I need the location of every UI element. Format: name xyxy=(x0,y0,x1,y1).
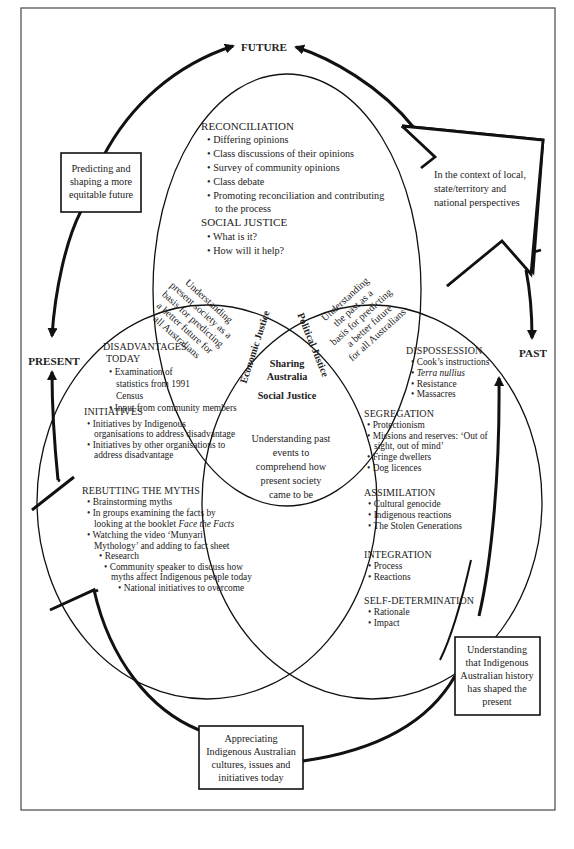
svg-text:• Watching the video ‘Munyari: • Watching the video ‘Munyari xyxy=(87,530,203,540)
svg-text:Indigenous Australian: Indigenous Australian xyxy=(206,746,296,757)
diagram-canvas: FUTURE PRESENT PAST Predicting and shapi… xyxy=(0,0,574,849)
section-reconciliation: RECONCILIATION • Differing opinions • Cl… xyxy=(201,120,384,214)
svg-text:• Research: • Research xyxy=(99,551,139,561)
svg-text:• In groups examining the fact: • In groups examining the facts by xyxy=(87,508,216,518)
svg-text:national perspectives: national perspectives xyxy=(434,197,520,208)
svg-text:• Differing opinions: • Differing opinions xyxy=(207,134,289,145)
social-justice-label: Social Justice xyxy=(258,390,317,401)
svg-text:initiatives today: initiatives today xyxy=(218,772,284,783)
sharing-australia-label: Sharing xyxy=(270,358,305,369)
svg-text:• Cultural genocide: • Cultural genocide xyxy=(368,499,441,509)
svg-text:myths affect Indigenous people: myths affect Indigenous people today xyxy=(111,572,252,582)
svg-text:• Impact: • Impact xyxy=(368,618,400,628)
svg-text:In the context of local,: In the context of local, xyxy=(434,169,526,180)
svg-text:present: present xyxy=(482,696,512,707)
section-rebutting-myths: REBUTTING THE MYTHS • Brainstorming myth… xyxy=(82,485,252,593)
svg-text:SOCIAL JUSTICE: SOCIAL JUSTICE xyxy=(201,216,287,228)
svg-text:RECONCILIATION: RECONCILIATION xyxy=(201,120,294,132)
arrow-history-to-past xyxy=(479,378,499,616)
svg-text:Australian history: Australian history xyxy=(460,670,534,681)
svg-text:equitable future: equitable future xyxy=(69,189,134,200)
svg-text:statistics from 1991: statistics from 1991 xyxy=(116,379,190,389)
svg-text:• Promoting reconciliation and: • Promoting reconciliation and contribut… xyxy=(207,190,384,201)
arrow-bottom-to-present xyxy=(52,372,58,480)
svg-text:• Dog licences: • Dog licences xyxy=(367,463,422,473)
svg-text:cultures, issues and: cultures, issues and xyxy=(212,759,291,770)
svg-text:to the process: to the process xyxy=(215,203,271,214)
label-past: PAST xyxy=(519,347,547,359)
svg-text:events to: events to xyxy=(273,447,310,458)
arc-bottom-right xyxy=(303,676,455,761)
svg-text:• Fringe dwellers: • Fringe dwellers xyxy=(367,452,432,462)
svg-text:• Class discussions of their o: • Class discussions of their opinions xyxy=(207,148,354,159)
svg-text:DISPOSSESSION: DISPOSSESSION xyxy=(406,345,482,356)
svg-text:• The Stolen Generations: • The Stolen Generations xyxy=(368,521,462,531)
svg-text:• Missions and reserves: ‘Out: • Missions and reserves: ‘Out of xyxy=(367,431,489,441)
svg-text:INTEGRATION: INTEGRATION xyxy=(364,549,432,560)
arrow-past-to-future xyxy=(296,47,415,129)
overlap-bottom-text: Understanding past events to comprehend … xyxy=(252,433,331,500)
svg-text:• Cook’s instructions: • Cook’s instructions xyxy=(411,357,490,367)
label-future: FUTURE xyxy=(241,41,287,53)
section-initiatives: INITIATIVES • Initiatives by Indigenous … xyxy=(84,406,235,460)
svg-text:• Process: • Process xyxy=(368,561,403,571)
svg-text:Census: Census xyxy=(116,391,143,401)
box-appreciating: Appreciating Indigenous Australian cultu… xyxy=(199,726,303,789)
svg-text:• Resistance: • Resistance xyxy=(411,379,457,389)
svg-text:state/territory and: state/territory and xyxy=(434,183,506,194)
svg-text:present society: present society xyxy=(261,475,323,486)
svg-text:• Protectionism: • Protectionism xyxy=(367,420,425,430)
svg-text:• Terra nullius: • Terra nullius xyxy=(411,368,465,378)
svg-text:• Class debate: • Class debate xyxy=(207,176,265,187)
label-present: PRESENT xyxy=(28,355,80,367)
section-segregation: SEGREGATION • Protectionism • Missions a… xyxy=(364,408,489,473)
sharing-australia-label-2: Australia xyxy=(267,371,308,382)
arrow-box-to-present xyxy=(52,211,81,336)
svg-text:has shaped the: has shaped the xyxy=(467,683,527,694)
svg-text:INITIATIVES: INITIATIVES xyxy=(84,406,143,417)
svg-text:TODAY: TODAY xyxy=(106,353,140,364)
svg-text:• Initiatives by other organis: • Initiatives by other organisations to xyxy=(87,440,226,450)
svg-text:REBUTTING THE MYTHS: REBUTTING THE MYTHS xyxy=(82,485,200,496)
svg-text:that Indigenous: that Indigenous xyxy=(465,657,528,668)
svg-text:Predicting and: Predicting and xyxy=(71,163,130,174)
svg-text:• Examination of: • Examination of xyxy=(109,367,174,377)
section-assimilation: ASSIMILATION • Cultural genocide • Indig… xyxy=(364,487,462,531)
section-dispossession: DISPOSSESSION • Cook’s instructions • Te… xyxy=(406,345,490,399)
box-understanding-history: Understanding that Indigenous Australian… xyxy=(455,637,540,715)
svg-text:SELF-DETERMINATION: SELF-DETERMINATION xyxy=(364,595,474,606)
section-social-justice: SOCIAL JUSTICE • What is it? • How will … xyxy=(201,216,287,256)
svg-text:Mythology’ and adding to fact: Mythology’ and adding to fact sheet xyxy=(94,541,230,551)
svg-text:SEGREGATION: SEGREGATION xyxy=(364,408,434,419)
svg-text:Understanding: Understanding xyxy=(467,644,527,655)
svg-text:• What is it?: • What is it? xyxy=(207,231,258,242)
box-predicting: Predicting and shaping a more equitable … xyxy=(61,153,141,212)
arrow-down-to-past xyxy=(526,270,532,338)
svg-text:comprehend how: comprehend how xyxy=(256,461,327,472)
svg-text:ASSIMILATION: ASSIMILATION xyxy=(364,487,435,498)
svg-text:• National initiatives to over: • National initiatives to overcome xyxy=(118,583,244,593)
overlap-top-right-text: Understanding the past as a basis for pr… xyxy=(312,269,410,365)
svg-text:• How will it help?: • How will it help? xyxy=(207,245,285,256)
svg-text:looking at the booklet Face th: looking at the booklet Face the Facts xyxy=(94,519,234,529)
svg-text:• Initiatives by Indigenous: • Initiatives by Indigenous xyxy=(87,419,186,429)
svg-text:shaping a more: shaping a more xyxy=(70,176,133,187)
arc-lower-left xyxy=(50,590,199,730)
svg-text:DISADVANTAGES: DISADVANTAGES xyxy=(103,341,187,352)
svg-text:• Survey of community opinions: • Survey of community opinions xyxy=(207,162,340,173)
svg-text:organisations to address disad: organisations to address disadvantage xyxy=(94,429,235,439)
section-integration: INTEGRATION • Process • Reactions xyxy=(364,549,432,582)
svg-text:Appreciating: Appreciating xyxy=(224,733,277,744)
svg-text:• Massacres: • Massacres xyxy=(411,389,456,399)
svg-text:• Rationale: • Rationale xyxy=(368,607,410,617)
svg-text:Understanding past: Understanding past xyxy=(252,433,331,444)
svg-text:sight, out of mind’: sight, out of mind’ xyxy=(374,441,444,451)
svg-text:• Brainstorming myths: • Brainstorming myths xyxy=(87,497,172,507)
section-disadvantages: DISADVANTAGES TODAY • Examination of sta… xyxy=(103,341,237,413)
svg-text:• Community speaker to discuss: • Community speaker to discuss how xyxy=(104,562,243,572)
svg-text:address disadvantage: address disadvantage xyxy=(94,450,173,460)
svg-text:came to be: came to be xyxy=(269,489,314,500)
svg-text:• Indigenous reactions: • Indigenous reactions xyxy=(368,510,452,520)
svg-text:• Reactions: • Reactions xyxy=(368,572,411,582)
